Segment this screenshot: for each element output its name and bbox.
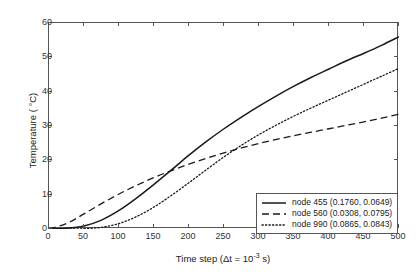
- x-tick-mark: [83, 224, 84, 228]
- x-tick-mark: [328, 22, 329, 26]
- x-tick-label: 250: [215, 231, 230, 241]
- x-tick-mark: [188, 22, 189, 26]
- y-tick-label: 60: [42, 17, 52, 27]
- legend-label: node 560 (0.0308, 0.0795): [292, 208, 392, 219]
- x-tick-mark: [153, 22, 154, 26]
- x-tick-mark: [363, 22, 364, 26]
- y-tick-mark: [48, 228, 52, 229]
- x-tick-mark: [118, 224, 119, 228]
- x-tick-mark: [223, 224, 224, 228]
- x-tick-label: 50: [78, 231, 88, 241]
- legend: node 455 (0.1760, 0.0649)node 560 (0.030…: [256, 193, 398, 234]
- legend-item: node 455 (0.1760, 0.0649): [261, 197, 392, 208]
- legend-line-sample: [261, 198, 287, 208]
- y-tick-label: 30: [42, 120, 52, 130]
- x-axis-label-tail: s): [260, 253, 271, 264]
- x-axis-label-main: Time step (Δt = 10: [176, 253, 254, 264]
- y-tick-mark: [394, 125, 398, 126]
- legend-label: node 990 (0.0865, 0.0843): [292, 219, 392, 230]
- x-tick-mark: [83, 22, 84, 26]
- y-tick-mark: [394, 22, 398, 23]
- y-axis-label: Temperature ( °C): [27, 46, 38, 216]
- legend-line-sample: [261, 220, 287, 230]
- x-tick-label: 100: [110, 231, 125, 241]
- x-tick-mark: [223, 22, 224, 26]
- legend-label: node 455 (0.1760, 0.0649): [292, 197, 392, 208]
- x-tick-mark: [398, 22, 399, 26]
- legend-item: node 560 (0.0308, 0.0795): [261, 208, 392, 219]
- legend-line-sample: [261, 209, 287, 219]
- y-tick-mark: [394, 159, 398, 160]
- y-tick-label: 50: [42, 51, 52, 61]
- temperature-vs-time-step-chart: 050100150200250300350400450500 010203040…: [0, 0, 420, 279]
- x-tick-label: 150: [145, 231, 160, 241]
- x-tick-mark: [118, 22, 119, 26]
- x-tick-mark: [258, 22, 259, 26]
- x-tick-mark: [153, 224, 154, 228]
- y-tick-label: 20: [42, 154, 52, 164]
- y-tick-mark: [394, 91, 398, 92]
- y-tick-mark: [394, 56, 398, 57]
- y-tick-label: 10: [42, 189, 52, 199]
- y-tick-label: 40: [42, 86, 52, 96]
- x-axis-label: Time step (Δt = 10-3 s): [48, 252, 398, 264]
- x-tick-mark: [293, 22, 294, 26]
- x-tick-mark: [188, 224, 189, 228]
- legend-item: node 990 (0.0865, 0.0843): [261, 219, 392, 230]
- y-tick-label: 0: [42, 223, 47, 233]
- x-tick-label: 200: [180, 231, 195, 241]
